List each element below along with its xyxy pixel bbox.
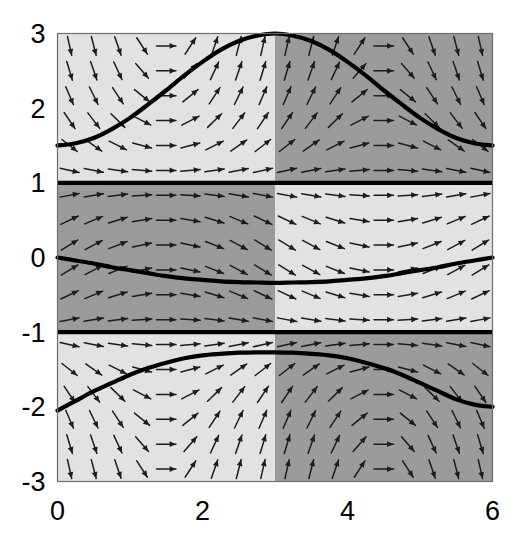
shade-region-1 — [275, 34, 493, 183]
x-tick-label: 6 — [485, 496, 500, 526]
y-tick-label: 2 — [30, 94, 45, 124]
shade-region-3 — [275, 183, 493, 332]
y-tick-label: 3 — [30, 19, 45, 49]
y-tick-label: -3 — [21, 467, 45, 497]
y-tick-label: -2 — [21, 392, 45, 422]
y-tick-label: -1 — [21, 318, 45, 348]
shade-region-2 — [58, 183, 276, 332]
x-tick-label: 0 — [50, 496, 65, 526]
y-tick-label: 1 — [30, 168, 45, 198]
direction-field-chart: 0246 3210-1-2-3 — [0, 0, 520, 557]
x-tick-label: 2 — [195, 496, 210, 526]
figure-container: 0246 3210-1-2-3 — [0, 0, 520, 557]
shade-region-0 — [58, 34, 276, 183]
y-tick-label: 0 — [30, 243, 45, 273]
x-tick-label: 4 — [340, 496, 355, 526]
